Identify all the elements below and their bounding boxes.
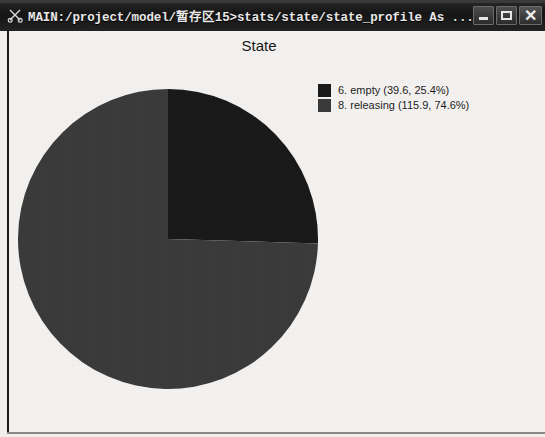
window-controls: ✕	[473, 6, 542, 25]
application-window: MAIN:/project/model/暂存区15>stats/state/st…	[0, 0, 545, 437]
window-title: MAIN:/project/model/暂存区15>stats/state/st…	[28, 6, 473, 25]
pie-slice[interactable]	[168, 89, 318, 243]
pie-slices	[18, 89, 318, 389]
close-button[interactable]: ✕	[519, 6, 542, 25]
minimize-icon	[479, 17, 488, 20]
legend-label-empty: 6. empty (39.6, 25.4%)	[338, 84, 449, 97]
pie-chart-panel: State 6. empty (39.6, 25.4%) 8. releasin…	[9, 31, 545, 432]
legend-swatch-releasing	[318, 99, 331, 112]
titlebar-highlight-edge	[0, 0, 545, 3]
legend-item[interactable]: 8. releasing (115.9, 74.6%)	[318, 99, 493, 113]
legend-swatch-empty	[318, 84, 331, 97]
legend-label-releasing: 8. releasing (115.9, 74.6%)	[338, 99, 469, 112]
scissors-icon	[7, 7, 24, 24]
maximize-icon	[501, 11, 512, 20]
chart-legend: 6. empty (39.6, 25.4%) 8. releasing (115…	[318, 84, 493, 114]
minimize-button[interactable]	[473, 6, 494, 25]
maximize-button[interactable]	[496, 6, 517, 25]
close-icon: ✕	[524, 9, 537, 23]
window-titlebar[interactable]: MAIN:/project/model/暂存区15>stats/state/st…	[0, 0, 545, 31]
legend-item[interactable]: 6. empty (39.6, 25.4%)	[318, 84, 493, 98]
client-bottom-edge	[7, 432, 545, 434]
window-client-area: State 6. empty (39.6, 25.4%) 8. releasin…	[0, 31, 545, 437]
